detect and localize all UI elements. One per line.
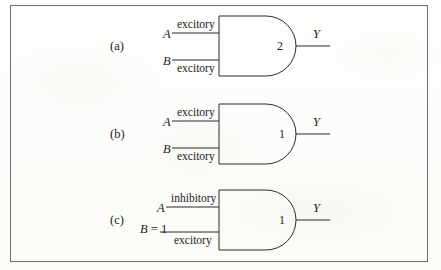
input-name-c-A: A (157, 201, 165, 216)
output-name-a: Y (313, 27, 320, 42)
threshold-logic-gate-figure: (a) A excitory B excitory 2 Y (b) A exci… (0, 0, 441, 270)
threshold-value-c: 1 (279, 213, 285, 228)
gate-body-a (219, 16, 296, 76)
output-name-c: Y (313, 201, 320, 216)
gate-row-label-c: (c) (110, 213, 124, 228)
gate-row-label-b: (b) (110, 127, 125, 142)
output-name-b: Y (313, 115, 320, 130)
gate-diagram-lines (0, 0, 441, 270)
input-name-a-B: B (163, 54, 171, 69)
threshold-value-b: 1 (279, 127, 285, 142)
input-name-b-B: B (163, 142, 171, 157)
input-type-c-B: excitory (174, 234, 212, 246)
input-name-b-A: A (163, 115, 171, 130)
input-type-a-B: excitory (177, 62, 215, 74)
input-type-a-A: excitory (177, 18, 215, 30)
gate-row-label-a: (a) (110, 39, 124, 54)
threshold-value-a: 2 (277, 39, 283, 54)
input-type-b-B: excitory (177, 150, 215, 162)
input-name-c-B: B = 1 (140, 222, 167, 237)
input-name-a-A: A (163, 27, 171, 42)
input-type-c-A: inhibitory (171, 192, 216, 204)
input-type-b-A: excitory (177, 106, 215, 118)
